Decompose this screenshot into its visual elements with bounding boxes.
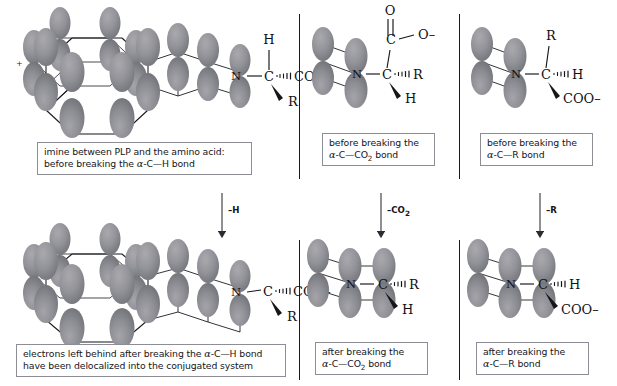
caption-bottom-middle-line1: after breaking the [322, 346, 421, 358]
bond-calpha-r-wedge-bottom [270, 299, 282, 316]
arrow-label-right-text: –R [546, 205, 557, 215]
nitrogen-label: N [511, 67, 521, 81]
alpha-carbon-label-bottom: C [263, 284, 273, 299]
arrow-label-middle: –CO2 [387, 205, 410, 218]
substituent-h-label: H [263, 32, 274, 47]
arrow-label-right: –R [546, 205, 557, 215]
substituent-r-label-bottom: R [287, 309, 298, 324]
panel-top-right: N C R H COO– before breaking the α-C—R b… [460, 0, 617, 180]
alpha-carbon-label-bottom-right: C [538, 277, 548, 292]
caption-top-middle-line2: α-C—CO2 bond [329, 149, 428, 165]
caption-top-right: before breaking the α-C—R bond [480, 133, 593, 166]
caption-top-left-line1: imine between PLP and the amino acid: [44, 146, 245, 158]
caption-bottom-left-line1: electrons left behind after breaking the… [23, 348, 279, 360]
bond-calpha-r-hashed [395, 71, 409, 77]
bond-calpha-coo-wedge [548, 82, 560, 99]
caption-top-left-line2: before breaking the α-C—H bond [44, 158, 245, 170]
structure-bottom-middle: N C R H [300, 232, 459, 342]
carbonyl-oxygen-label: O [385, 3, 396, 18]
imine-nitrogen-label: N [231, 69, 241, 83]
panel-bottom-middle: N C R H after breaking the α-C—CO2 bond [300, 232, 459, 386]
substituent-r-label-bottom-middle: R [409, 277, 420, 292]
imine-nitrogen-label-bottom: N [231, 285, 241, 299]
conjugation-lines-bottom [148, 268, 240, 332]
caption-bottom-middle: after breaking the α-C—CO2 bond [315, 342, 428, 375]
caption-bottom-left: electrons left behind after breaking the… [16, 344, 286, 377]
anion-oxygen-label: O– [418, 27, 435, 42]
figure-root: + N C H COO– [0, 0, 617, 386]
bond-n-calpha-bottom [247, 290, 261, 292]
caption-bottom-middle-line2: α-C—CO2 bond [322, 358, 421, 374]
alpha-carbon-label-right: C [541, 67, 551, 82]
caption-bottom-right-line1: after breaking the [483, 346, 582, 358]
bond-calpha-h-wedge [389, 82, 401, 99]
nitrogen-label-bottom-middle: N [346, 277, 356, 291]
structure-top-left: + N C H COO– [0, 0, 299, 140]
substituent-r-label-right: R [546, 28, 557, 43]
structure-top-right: N C R H COO– [460, 0, 617, 130]
conjugation-lines [148, 52, 240, 96]
substituent-coo-label-bottom-right: COO– [561, 302, 599, 317]
orbital-lobes-ring-bottom [23, 223, 160, 348]
substituent-coo-label-right: COO– [563, 91, 601, 106]
alpha-carbon-label-bottom-middle: C [378, 277, 388, 292]
panel-bottom-right: N C H COO– after breaking the α-C—R bond [460, 232, 617, 386]
substituent-h-label-middle: H [405, 91, 416, 106]
nitrogen-label: N [352, 67, 362, 81]
substituent-h-label-bottom-right: H [569, 277, 580, 292]
caption-bottom-right: after breaking the α-C—R bond [476, 342, 589, 375]
bond-calpha-coo-hashed-bottom [276, 288, 290, 294]
panel-bottom-left: N C COO– R electrons left behind after b… [0, 232, 299, 386]
bond-calpha-r-wedge [271, 84, 283, 101]
caption-top-middle-line1: before breaking the [329, 137, 428, 149]
bond-calpha-h-hashed [554, 71, 568, 77]
bond-calpha-ccarboxyl [387, 50, 390, 68]
substituent-h-label-right: H [572, 67, 583, 82]
nitrogen-label-bottom-right: N [506, 277, 516, 291]
panel-top-left: + N C H COO– [0, 0, 299, 180]
bond-calpha-h-hashed-bottom [551, 281, 565, 287]
structure-top-middle: N C C O O– R [300, 0, 459, 130]
alpha-carbon-label-middle: C [382, 67, 392, 82]
bond-calpha-r-hashed-bottom [391, 281, 405, 287]
arrow-label-middle-text: –CO [387, 205, 405, 215]
structure-bottom-right: N C H COO– [460, 232, 617, 342]
caption-top-middle: before breaking the α-C—CO2 bond [322, 133, 435, 166]
ring-nitrogen-charge: + [16, 59, 23, 68]
caption-bottom-left-line2: have been delocalized into the conjugate… [23, 360, 279, 372]
bond-c-oanion [399, 35, 414, 39]
caption-top-right-line1: before breaking the [487, 137, 586, 149]
caption-top-left: imine between PLP and the amino acid: be… [37, 142, 252, 175]
alpha-carbon-label: C [264, 69, 274, 84]
arrow-label-middle-sub: 2 [405, 209, 410, 218]
structure-bottom-left: N C COO– R [0, 232, 299, 342]
arrow-label-left-text: –H [228, 205, 240, 215]
bond-calpha-r-plain [546, 46, 549, 68]
substituent-r-label: R [288, 94, 299, 109]
arrow-label-left: –H [228, 205, 240, 215]
bond-calpha-coo-hashed [277, 73, 291, 79]
caption-bottom-right-line2: α-C—R bond [483, 358, 582, 370]
caption-top-right-line2: α-C—R bond [487, 149, 586, 161]
substituent-r-label-middle: R [413, 67, 424, 82]
panel-top-middle: N C C O O– R [300, 0, 459, 180]
substituent-h-label-bottom-middle: H [402, 302, 413, 317]
